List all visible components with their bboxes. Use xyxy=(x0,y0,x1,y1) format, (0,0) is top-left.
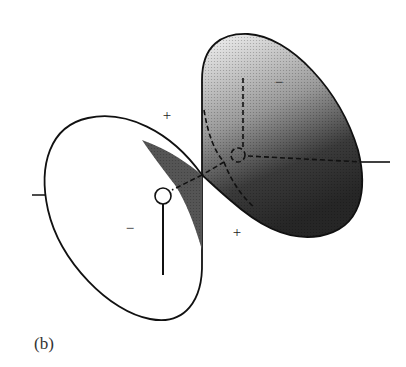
figure-label: (b) xyxy=(34,334,54,354)
sign-plus-upper: + xyxy=(163,108,171,123)
sign-minus-right-lobe: − xyxy=(275,75,283,90)
sign-minus-left-lobe: − xyxy=(126,221,134,236)
orbital-diagram xyxy=(0,0,406,367)
sign-plus-lower: + xyxy=(233,225,241,240)
left-lobe-origin-circle xyxy=(155,188,171,204)
left-lobe xyxy=(45,116,202,320)
